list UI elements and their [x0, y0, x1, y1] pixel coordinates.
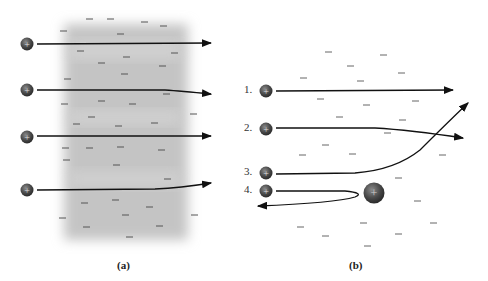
- alpha-particle-icon: +: [21, 38, 34, 51]
- svg-text:+: +: [24, 185, 30, 196]
- particle-number-2: 2.: [244, 121, 252, 133]
- alpha-particle-icon: +: [260, 167, 273, 180]
- particle-number-3: 3.: [244, 165, 252, 177]
- negative-charges-b: [297, 52, 446, 246]
- svg-text:+: +: [24, 85, 30, 96]
- particles-b: + + + + +: [258, 85, 468, 207]
- charge-cloud: [64, 24, 188, 240]
- alpha-particle-icon: +: [21, 131, 34, 144]
- svg-text:+: +: [263, 186, 269, 197]
- svg-text:+: +: [371, 186, 378, 200]
- nucleus-icon: +: [364, 183, 385, 204]
- svg-text:+: +: [263, 124, 269, 135]
- svg-text:+: +: [263, 86, 269, 97]
- svg-text:+: +: [263, 168, 269, 179]
- particle-number-4: 4.: [244, 183, 252, 195]
- particle-number-1: 1.: [244, 83, 252, 95]
- caption-b: (b): [349, 259, 362, 271]
- alpha-particle-icon: +: [260, 123, 273, 136]
- svg-text:+: +: [24, 39, 30, 50]
- alpha-particle-icon: +: [260, 85, 273, 98]
- svg-text:+: +: [24, 132, 30, 143]
- caption-a: (a): [117, 259, 130, 271]
- alpha-particle-icon: +: [21, 184, 34, 197]
- alpha-particle-icon: +: [21, 84, 34, 97]
- scattering-diagram: + + + + + + + + +: [0, 0, 488, 281]
- alpha-particle-icon: +: [260, 185, 273, 198]
